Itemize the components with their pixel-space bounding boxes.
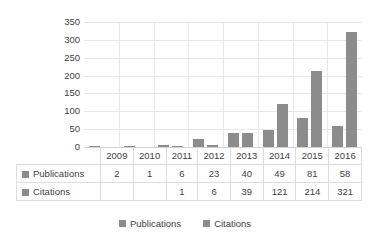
table-cell: 321: [329, 183, 362, 201]
table-cell: 23: [198, 165, 231, 183]
bar-pair: [84, 22, 119, 147]
table-corner-cell: [17, 147, 101, 165]
legend-item[interactable]: Publications: [119, 218, 181, 229]
y-tick-label: 150: [64, 88, 80, 98]
table-header-cell: 2010: [133, 147, 166, 165]
legend-label: Citations: [214, 218, 251, 229]
table-cell: 2: [101, 165, 134, 183]
data-table: 20092010201120122013201420152016Publicat…: [16, 147, 362, 201]
table-cell: 121: [263, 183, 296, 201]
table-row-label-text: Publications: [33, 168, 84, 179]
data-table-body: 20092010201120122013201420152016Publicat…: [17, 147, 362, 201]
bar-pair: [188, 22, 223, 147]
table-cell: 6: [166, 165, 198, 183]
table-header-cell: 2015: [296, 147, 329, 165]
category-group: [223, 22, 258, 147]
y-tick-label: 50: [69, 124, 80, 134]
table-cell: 39: [230, 183, 263, 201]
category-group: [154, 22, 189, 147]
series-swatch-icon: [22, 189, 29, 196]
table-row: Citations1639121214321: [17, 183, 362, 201]
chart-container: Publications and citations 0501001502002…: [0, 0, 370, 240]
bar-publications-2013: [228, 133, 239, 147]
table-header-cell: 2016: [329, 147, 362, 165]
category-group: [258, 22, 293, 147]
y-tick-label: 200: [64, 71, 80, 81]
bar-series-container: [84, 22, 362, 147]
table-cell: 81: [296, 165, 329, 183]
bar-citations-2016: [346, 32, 357, 147]
y-tick-label: 300: [64, 35, 80, 45]
bar-pair: [154, 22, 189, 147]
table-cell: 40: [230, 165, 263, 183]
category-group: [84, 22, 119, 147]
table-header-cell: 2014: [263, 147, 296, 165]
category-group: [188, 22, 223, 147]
category-group: [327, 22, 362, 147]
y-tick-label: 350: [64, 17, 80, 27]
table-row: Publications2162340498158: [17, 165, 362, 183]
bar-pair: [258, 22, 293, 147]
table-cell: 49: [263, 165, 296, 183]
legend-label: Publications: [130, 218, 181, 229]
table-header-cell: 2009: [101, 147, 134, 165]
bar-publications-2016: [332, 126, 343, 147]
table-header-cell: 2011: [166, 147, 198, 165]
table-row-label-text: Citations: [33, 186, 70, 197]
bar-citations-2015: [311, 71, 322, 147]
bar-publications-2014: [263, 130, 274, 148]
series-swatch-icon: [22, 171, 29, 178]
y-axis-tick-labels: 050100150200250300350: [54, 22, 80, 147]
table-cell: 214: [296, 183, 329, 201]
table-cell: 58: [329, 165, 362, 183]
y-tick-label: 100: [64, 106, 80, 116]
table-header-cell: 2013: [230, 147, 263, 165]
legend-item[interactable]: Citations: [203, 218, 251, 229]
bar-pair: [293, 22, 328, 147]
bar-pair: [223, 22, 258, 147]
bar-publications-2012: [193, 139, 204, 147]
table-cell: 6: [198, 183, 231, 201]
table-cell: [101, 183, 134, 201]
table-cell: 1: [166, 183, 198, 201]
table-header-cell: 2012: [198, 147, 231, 165]
bar-pair: [327, 22, 362, 147]
table-cell: 1: [133, 165, 166, 183]
bar-citations-2013: [242, 133, 253, 147]
table-header-row: 20092010201120122013201420152016: [17, 147, 362, 165]
table-cell: [133, 183, 166, 201]
category-group: [293, 22, 328, 147]
table-row-label: Citations: [17, 183, 101, 201]
bar-citations-2014: [277, 104, 288, 147]
legend-swatch-icon: [119, 220, 126, 227]
table-row-label: Publications: [17, 165, 101, 183]
bar-pair: [119, 22, 154, 147]
y-tick-label: 250: [64, 53, 80, 63]
plot-area: [84, 22, 362, 147]
bar-publications-2015: [297, 118, 308, 147]
category-group: [119, 22, 154, 147]
legend-swatch-icon: [203, 220, 210, 227]
chart-legend: PublicationsCitations: [0, 218, 370, 229]
